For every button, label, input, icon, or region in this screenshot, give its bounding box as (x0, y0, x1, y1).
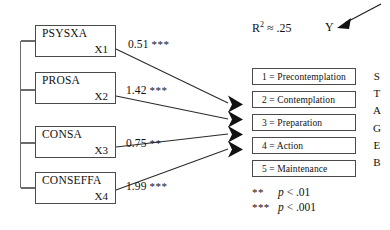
legend-p-value: p < .01 (278, 186, 310, 198)
stage-label: 1 = Precontemplation (253, 72, 346, 82)
predictor-name: PROSA (42, 74, 80, 86)
stage-box-maintenance[interactable]: 5 = Maintenance (252, 160, 356, 177)
coefficient-value: 0.75 (126, 137, 147, 149)
significance-stars: *** (152, 38, 170, 50)
predictor-bracket (21, 41, 36, 188)
predictor-code: X4 (95, 190, 108, 202)
stage-label: 3 = Preparation (253, 118, 322, 128)
legend-row: *** p < .001 (252, 201, 316, 216)
path-diagram: PSYSXA X1 PROSA X2 CONSA X3 CONSEFFA X4 … (0, 0, 390, 230)
coefficient-value: 1.99 (126, 180, 147, 192)
predictor-name: CONSA (42, 128, 82, 140)
stage-vertical-letter: E (369, 137, 385, 154)
coefficient-value: 1.42 (126, 84, 147, 96)
path-lines (116, 49, 228, 190)
outcome-variable-label: Y (325, 20, 334, 35)
path-coefficient-x4: 1.99 *** (126, 180, 168, 192)
r-symbol: R (252, 21, 260, 35)
r-squared-label: R2 ≈ .25 (252, 20, 292, 36)
path-coefficient-x3: 0.75 ** (126, 137, 162, 149)
predictor-box-conseffa[interactable]: CONSEFFA X4 (35, 172, 116, 204)
predictor-name: CONSEFFA (42, 174, 102, 186)
predictor-code: X3 (95, 144, 108, 156)
outcome-pointer-arrow (337, 4, 381, 29)
stage-box-action[interactable]: 4 = Action (252, 137, 356, 154)
significance-stars: ** (150, 137, 162, 149)
significance-stars: *** (150, 84, 168, 96)
significance-legend: ** p < .01 *** p < .001 (252, 186, 316, 216)
stage-label: 5 = Maintenance (253, 164, 327, 174)
stage-vertical-letter: B (369, 154, 385, 171)
stage-vertical-letter: G (369, 120, 385, 137)
stage-vertical-letter: S (369, 68, 385, 85)
r-squared-value: ≈ .25 (267, 21, 292, 35)
predictor-box-prosa[interactable]: PROSA X2 (35, 72, 116, 104)
r-exponent: 2 (260, 20, 264, 29)
predictor-box-consa[interactable]: CONSA X3 (35, 126, 116, 158)
stage-vertical-letter: T (369, 85, 385, 102)
predictor-code: X1 (95, 43, 108, 55)
p-threshold: < .001 (284, 201, 316, 213)
stage-vertical-label: S T A G E B (369, 68, 385, 171)
legend-stars: ** (252, 186, 278, 198)
path-coefficient-x1: 0.51 *** (128, 38, 170, 50)
stage-label: 4 = Action (253, 141, 303, 151)
path-arrowheads (228, 96, 243, 158)
coefficient-value: 0.51 (128, 38, 149, 50)
predictor-code: X2 (95, 90, 108, 102)
predictor-name: PSYSXA (42, 27, 87, 39)
predictor-box-psysxa[interactable]: PSYSXA X1 (35, 25, 116, 57)
legend-stars: *** (252, 201, 278, 213)
stage-label: 2 = Contemplation (253, 95, 335, 105)
stage-vertical-letter: A (369, 102, 385, 119)
significance-stars: *** (150, 180, 168, 192)
p-threshold: < .01 (284, 186, 311, 198)
stage-box-precontemplation[interactable]: 1 = Precontemplation (252, 68, 356, 85)
legend-row: ** p < .01 (252, 186, 316, 201)
stage-box-preparation[interactable]: 3 = Preparation (252, 114, 356, 131)
stage-box-contemplation[interactable]: 2 = Contemplation (252, 91, 356, 108)
legend-p-value: p < .001 (278, 201, 316, 213)
path-coefficient-x2: 1.42 *** (126, 84, 168, 96)
